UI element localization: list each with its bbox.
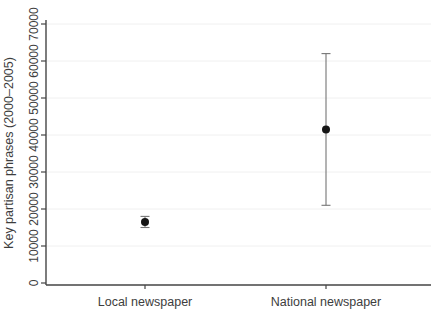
y-tick-label: 30000: [27, 155, 41, 189]
y-tick-label: 20000: [27, 192, 41, 226]
x-axis-ticks: Local newspaperNational newspaper: [98, 285, 382, 309]
y-axis-ticks: 010000200003000040000500006000070000: [27, 7, 46, 286]
dot-plot-figure: 010000200003000040000500006000070000 Loc…: [0, 0, 431, 317]
chart-canvas: 010000200003000040000500006000070000 Loc…: [0, 0, 431, 317]
data-point-group: [141, 216, 150, 227]
axes: [46, 20, 431, 285]
data-series: [141, 54, 331, 228]
y-tick-label: 0: [27, 279, 41, 286]
y-tick-label: 10000: [27, 229, 41, 263]
gridlines: [47, 24, 431, 246]
y-tick-label: 40000: [27, 118, 41, 152]
x-category-label: National newspaper: [271, 295, 382, 309]
y-tick-label: 60000: [27, 44, 41, 78]
y-tick-label: 50000: [27, 81, 41, 115]
data-point-group: [322, 54, 331, 206]
y-axis-title: Key partisan phrases (2000–2005): [2, 57, 16, 249]
data-point-marker: [141, 218, 149, 226]
x-category-label: Local newspaper: [98, 295, 193, 309]
y-tick-label: 70000: [27, 7, 41, 41]
data-point-marker: [322, 125, 330, 133]
